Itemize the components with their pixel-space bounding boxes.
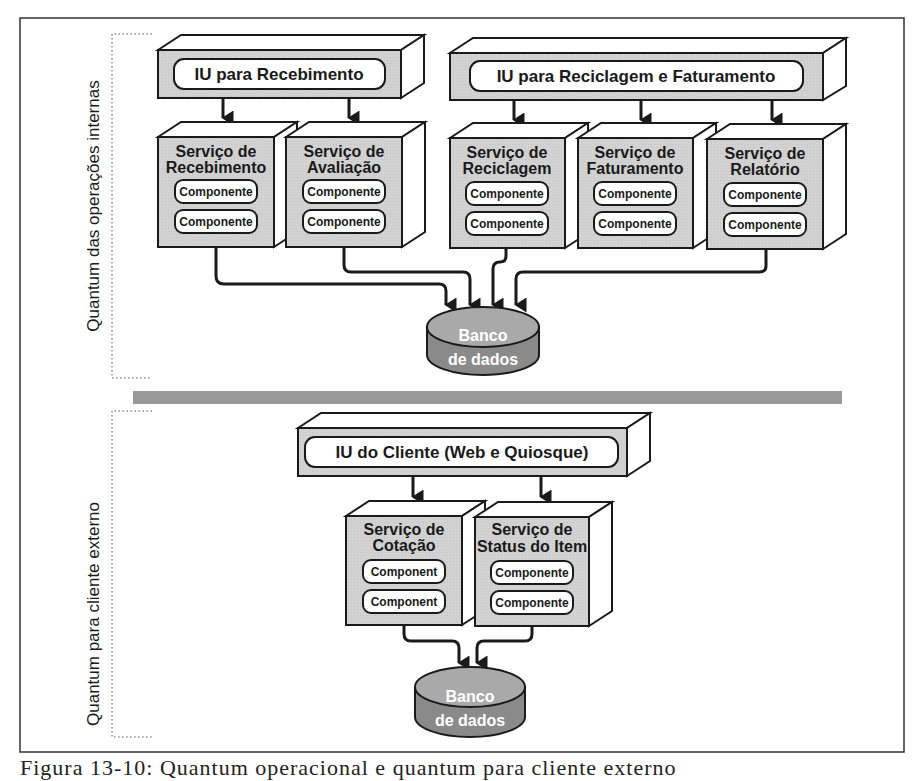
- component-pill: Componente: [179, 185, 253, 199]
- component-pill: Componente: [495, 566, 569, 580]
- svg-text:Serviço de: Serviço de: [492, 521, 573, 538]
- svg-text:Status do Item: Status do Item: [477, 538, 587, 555]
- svg-text:Serviço de: Serviço de: [595, 144, 676, 161]
- component-pill: Component: [371, 595, 438, 609]
- svg-text:Banco: Banco: [446, 688, 495, 705]
- svg-text:Serviço de: Serviço de: [725, 145, 806, 162]
- svg-text:de dados: de dados: [448, 351, 518, 368]
- service-box-relatorio: Serviço de Relatório Componente Componen…: [707, 124, 846, 249]
- quantum-internal-operations: Quantum das operações internas IU para R…: [84, 34, 846, 378]
- component-pill: Componente: [307, 215, 381, 229]
- service-to-database-connectors: [404, 625, 532, 663]
- database-internal: Banco de dados: [427, 307, 539, 375]
- service-to-database-connectors: [216, 247, 766, 305]
- component-pill: Componente: [470, 187, 544, 201]
- ui-box-recebimento: IU para Recebimento: [158, 35, 424, 98]
- svg-text:Reciclagem: Reciclagem: [463, 160, 552, 177]
- svg-text:Serviço de: Serviço de: [304, 143, 385, 160]
- service-box-avaliacao: Serviço de Avaliação Componente Componen…: [286, 122, 425, 247]
- svg-text:IU para Recebimento: IU para Recebimento: [194, 65, 363, 84]
- quantum-external-client: Quantum para cliente externo IU do Clien…: [84, 411, 650, 737]
- service-box-cotacao: Serviço de Cotação Component Component: [346, 501, 485, 625]
- quantum-label: Quantum das operações internas: [84, 80, 103, 331]
- svg-text:Cotação: Cotação: [372, 537, 435, 554]
- service-box-status-item: Serviço de Status do Item Componente Com…: [475, 502, 612, 626]
- svg-text:Relatório: Relatório: [730, 161, 800, 178]
- quantum-divider: [133, 391, 842, 404]
- svg-text:Recebimento: Recebimento: [166, 159, 267, 176]
- svg-text:de dados: de dados: [435, 712, 505, 729]
- component-pill: Componente: [728, 218, 802, 232]
- component-pill: Componente: [598, 187, 672, 201]
- svg-text:Faturamento: Faturamento: [587, 160, 684, 177]
- ui-box-reciclagem-faturamento: IU para Reciclagem e Faturamento: [450, 38, 846, 100]
- svg-text:Banco: Banco: [459, 327, 508, 344]
- component-pill: Componente: [495, 596, 569, 610]
- component-pill: Componente: [179, 215, 253, 229]
- svg-text:Serviço de: Serviço de: [364, 521, 445, 538]
- ui-to-service-arrows: [413, 476, 541, 497]
- service-box-recebimento: Serviço de Recebimento Componente Compon…: [158, 122, 297, 247]
- svg-text:Avaliação: Avaliação: [307, 159, 381, 176]
- component-pill: Componente: [728, 188, 802, 202]
- quantum-bracket: [112, 411, 152, 737]
- service-box-reciclagem: Serviço de Reciclagem Componente Compone…: [450, 123, 588, 248]
- component-pill: Componente: [307, 185, 381, 199]
- quantum-bracket: [112, 34, 152, 378]
- svg-text:Serviço de: Serviço de: [467, 144, 548, 161]
- component-pill: Componente: [598, 217, 672, 231]
- component-pill: Component: [371, 565, 438, 579]
- database-external: Banco de dados: [415, 667, 525, 737]
- component-pill: Componente: [470, 217, 544, 231]
- ui-box-cliente: IU do Cliente (Web e Quiosque): [298, 413, 650, 476]
- svg-text:Serviço de: Serviço de: [176, 143, 257, 160]
- figure-caption: Figura 13-10: Quantum operacional e quan…: [20, 755, 677, 781]
- svg-text:IU para Reciclagem e Faturamen: IU para Reciclagem e Faturamento: [497, 67, 776, 86]
- svg-text:IU do Cliente (Web e Quiosque): IU do Cliente (Web e Quiosque): [336, 443, 589, 462]
- service-box-faturamento: Serviço de Faturamento Componente Compon…: [578, 123, 716, 248]
- ui-to-service-arrows: [223, 98, 772, 120]
- quantum-label: Quantum para cliente externo: [84, 502, 103, 726]
